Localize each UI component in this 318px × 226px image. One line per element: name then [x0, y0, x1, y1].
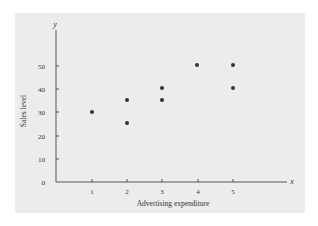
- data-point: [231, 86, 235, 90]
- x-axis-title: Advertising expenditure: [137, 199, 210, 208]
- data-point: [195, 63, 199, 67]
- y-tick-label: 20: [38, 133, 46, 141]
- scatter-chart: y x 0 10 20 30 40 50 1 2 3 4 5 Advertisi…: [0, 0, 318, 226]
- x-tick-label: 3: [160, 188, 164, 196]
- y-tick-label: 40: [38, 86, 46, 94]
- y-tick-label: 0: [42, 179, 46, 187]
- x-axis-symbol: x: [289, 177, 294, 186]
- data-point: [125, 98, 129, 102]
- y-tick-label: 10: [38, 156, 46, 164]
- x-tick-label: 1: [90, 188, 94, 196]
- x-tick-label: 4: [196, 188, 200, 196]
- data-point: [90, 110, 94, 114]
- y-tick-label: 50: [38, 63, 46, 71]
- data-point: [231, 63, 235, 67]
- data-point: [125, 121, 129, 125]
- data-points: [90, 63, 235, 125]
- y-axis-title: Sales level: [19, 95, 28, 127]
- x-tick-label: 2: [125, 188, 129, 196]
- data-point: [160, 86, 164, 90]
- y-tick-label: 30: [38, 109, 46, 117]
- y-axis-symbol: y: [52, 20, 57, 29]
- x-tick-label: 5: [231, 188, 235, 196]
- data-point: [160, 98, 164, 102]
